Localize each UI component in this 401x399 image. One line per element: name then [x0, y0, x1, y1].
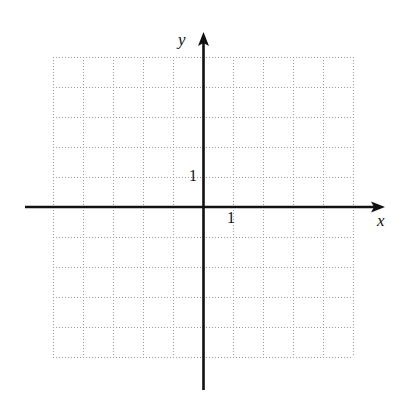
axes-layer: [0, 0, 401, 399]
x-axis-tick-label-one: 1: [227, 210, 235, 226]
coordinate-plane: y x 1 1: [0, 0, 401, 399]
x-axis-label: x: [377, 212, 385, 229]
y-axis-tick-label-one: 1: [189, 168, 197, 184]
y-axis-label: y: [178, 31, 186, 48]
